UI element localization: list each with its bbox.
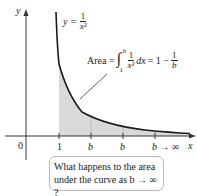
x-axis-label: x [188,141,192,151]
improper-integral-figure: y x 0 1 b b b → ∞ y = 1 x² Area = ∫ b 1 … [0,0,197,196]
equals-one-minus: = 1 − [148,55,169,66]
tick-label-1: 1 [57,142,62,152]
curve-label-lhs: y = [63,16,77,27]
curve-label: y = 1 x² [63,12,86,31]
rhs-fraction: 1 b [171,51,178,70]
area-label-prefix: Area = [87,55,115,66]
area-label: Area = ∫ b 1 1 x² dx = 1 − 1 b [87,50,178,70]
curve-label-fraction: 1 x² [80,12,87,31]
rhs-denominator: b [172,61,177,70]
callout-line-1: What happens to the area [54,160,159,173]
y-axis-arrow-icon [24,9,29,16]
integral-lower-limit: 1 [120,66,124,74]
integrand-denominator: x² [128,61,135,70]
tick-label-b-2: b [120,142,125,152]
dx-label: dx [136,55,145,66]
annotation-leader-line [80,74,107,99]
curve-label-denominator: x² [80,22,87,31]
tick-label-b-infinity: b → ∞ [152,142,179,152]
integrand-fraction: 1 x² [128,51,135,70]
integrand-numerator: 1 [128,51,135,61]
rhs-numerator: 1 [171,51,178,61]
tick-label-b-1: b [88,142,93,152]
question-callout: What happens to the area under the curve… [49,156,164,191]
shaded-area [59,64,190,136]
x-axis-arrow-icon [189,134,196,139]
integral-upper-limit: b [123,47,127,55]
origin-label: 0 [18,141,23,151]
callout-line-2: under the curve as b → ∞ ? [54,173,159,196]
integral-sign: ∫ b 1 [117,50,128,70]
y-axis-label: y [16,6,20,16]
